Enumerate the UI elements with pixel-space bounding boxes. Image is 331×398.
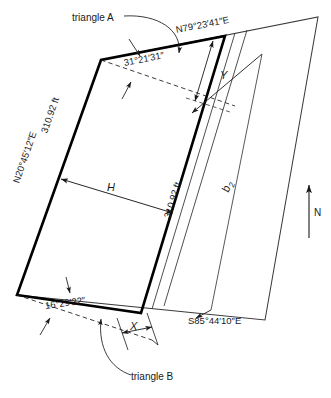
leader-triangle-b [40,277,131,375]
bearing-bottom-right-label: S85°44′10″E [188,316,241,326]
triangle-b-note: triangle B [131,372,173,382]
offset-line-right [152,30,247,309]
survey-diagram: triangle A triangle B N79°23′41″E N20°45… [0,0,331,398]
triangle-a-note: triangle A [72,13,114,23]
dimension-y-label: Y [220,70,227,81]
subject-parcel-outline [17,36,225,313]
dimension-h [61,179,173,213]
dimension-h-label: H [107,182,115,193]
dimension-x-label: X [130,321,137,332]
north-label: N [314,208,321,218]
